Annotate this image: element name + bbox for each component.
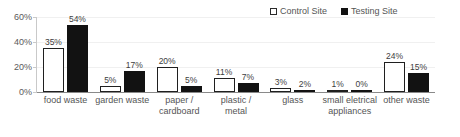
bar-slot: 20%: [157, 17, 178, 92]
bar-control-site[interactable]: [327, 90, 348, 92]
bar-group: 3%2%: [264, 17, 321, 92]
x-axis-category-label: food waste: [37, 95, 94, 117]
bar-value-label: 54%: [69, 15, 86, 24]
y-axis-tick-label: 20%: [2, 63, 32, 72]
bar-testing-site[interactable]: [351, 90, 372, 92]
y-axis-tick-label: 40%: [2, 38, 32, 47]
bar-value-label: 5%: [185, 76, 197, 85]
bar-testing-site[interactable]: [124, 71, 145, 92]
bar-slot: 24%: [384, 17, 405, 92]
bar-group: 35%54%: [37, 17, 94, 92]
x-axis-category-label: small eletrical appliances: [321, 95, 378, 117]
bar-group: 24%15%: [378, 17, 435, 92]
bar-slot: 11%: [214, 17, 235, 92]
bar-control-site[interactable]: [157, 67, 178, 92]
bar-slot: 3%: [270, 17, 291, 92]
y-axis-tick-label: 0%: [2, 88, 32, 97]
bar-slot: 1%: [327, 17, 348, 92]
legend-item-control-site: Control Site: [270, 6, 327, 16]
bar-value-label: 7%: [242, 73, 254, 82]
bar-testing-site[interactable]: [294, 90, 315, 93]
x-axis-category-label: plastic / metal: [208, 95, 265, 117]
x-axis-category-label: glass: [264, 95, 321, 117]
bar-group: 11%7%: [208, 17, 265, 92]
bar-value-label: 20%: [159, 57, 176, 66]
bar-slot: 5%: [100, 17, 121, 92]
bar-slot: 54%: [67, 17, 88, 92]
bar-testing-site[interactable]: [181, 86, 202, 92]
bar-value-label: 35%: [45, 38, 62, 47]
bar-control-site[interactable]: [384, 62, 405, 92]
bar-slot: 15%: [408, 17, 429, 92]
bar-groups: 35%54%5%17%20%5%11%7%3%2%1%0%24%15%: [37, 17, 435, 92]
bar-control-site[interactable]: [43, 48, 64, 92]
x-axis-category-label: garden waste: [94, 95, 151, 117]
x-axis-baseline: [37, 92, 435, 93]
legend-swatch-testing-site: [341, 8, 348, 15]
bar-slot: 35%: [43, 17, 64, 92]
bar-value-label: 1%: [332, 80, 344, 89]
legend-item-testing-site: Testing Site: [341, 6, 398, 16]
bar-slot: 5%: [181, 17, 202, 92]
x-axis-labels: food wastegarden wastepaper / cardboardp…: [37, 95, 435, 117]
bar-value-label: 15%: [410, 63, 427, 72]
bar-slot: 17%: [124, 17, 145, 92]
bar-slot: 2%: [294, 17, 315, 92]
bar-testing-site[interactable]: [408, 73, 429, 92]
y-axis-tick-label: 60%: [2, 13, 32, 22]
bar-testing-site[interactable]: [238, 83, 259, 92]
chart-legend: Control Site Testing Site: [270, 6, 398, 16]
bar-value-label: 11%: [216, 68, 232, 77]
x-axis-category-label: paper / cardboard: [151, 95, 208, 117]
bar-group: 1%0%: [321, 17, 378, 92]
legend-label-testing-site: Testing Site: [351, 6, 398, 16]
bar-slot: 0%: [351, 17, 372, 92]
bar-value-label: 24%: [386, 52, 403, 61]
bar-slot: 7%: [238, 17, 259, 92]
bar-chart: Control Site Testing Site 0%20%40%60% 35…: [0, 0, 460, 137]
bar-value-label: 5%: [104, 76, 116, 85]
bar-value-label: 17%: [126, 61, 143, 70]
bar-group: 5%17%: [94, 17, 151, 92]
bar-value-label: 0%: [356, 80, 368, 89]
bar-value-label: 3%: [275, 78, 287, 87]
bar-control-site[interactable]: [270, 88, 291, 92]
bar-group: 20%5%: [151, 17, 208, 92]
bar-control-site[interactable]: [214, 78, 235, 92]
legend-label-control-site: Control Site: [280, 6, 327, 16]
bar-control-site[interactable]: [100, 86, 121, 92]
legend-swatch-control-site: [270, 8, 277, 15]
bar-value-label: 2%: [299, 80, 311, 89]
x-axis-category-label: other waste: [378, 95, 435, 117]
bar-testing-site[interactable]: [67, 25, 88, 93]
